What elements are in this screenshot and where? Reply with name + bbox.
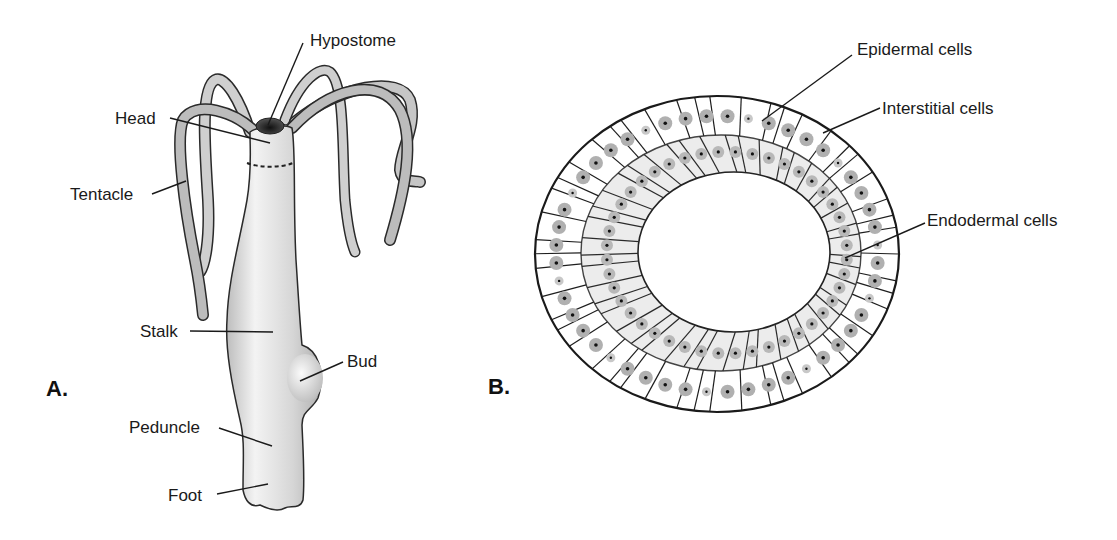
nucleolus — [868, 208, 872, 212]
nucleolus — [843, 230, 846, 233]
nucleolus — [831, 299, 834, 302]
nucleolus — [797, 170, 800, 173]
nucleolus — [876, 261, 880, 265]
nucleolus — [831, 203, 834, 206]
nucleolus — [805, 368, 807, 370]
label-tentacle: Tentacle — [70, 185, 133, 204]
nucleolus — [734, 352, 737, 355]
nucleolus — [845, 258, 848, 261]
nucleolus — [821, 148, 825, 152]
nucleolus — [668, 340, 671, 343]
nucleolus — [849, 176, 853, 180]
nucleolus — [767, 345, 770, 348]
nucleolus — [837, 162, 839, 164]
nucleolus — [626, 367, 630, 371]
nucleolus — [594, 343, 598, 347]
nucleolus — [838, 286, 841, 289]
nucleolus — [810, 180, 813, 183]
nucleolus — [571, 313, 575, 317]
nucleolus — [653, 170, 656, 173]
label-endodermal-cells: Endodermal cells — [927, 211, 1057, 230]
panel-b: Epidermal cells Interstitial cells Endod… — [488, 40, 1057, 412]
nucleolus — [640, 180, 643, 183]
nucleolus — [805, 137, 809, 141]
nucleolus — [838, 216, 841, 219]
nucleolus — [608, 272, 611, 275]
nucleolus — [683, 156, 686, 159]
leader-stalk — [190, 331, 273, 332]
nucleolus — [868, 297, 870, 299]
nucleolus — [668, 162, 671, 165]
nucleolus — [563, 297, 567, 301]
nucleolus — [610, 357, 612, 359]
hydra-figure: Hypostome Head Tentacle Stalk Bud Pedunc… — [0, 0, 1117, 540]
nucleolus — [821, 190, 824, 193]
nucleolus — [557, 225, 561, 229]
nucleolus — [640, 322, 643, 325]
panel-label-b: B. — [488, 374, 510, 399]
nucleolus — [629, 311, 632, 314]
label-stalk: Stalk — [140, 322, 178, 341]
nucleolus — [726, 390, 730, 394]
nucleolus — [608, 230, 611, 233]
bud — [287, 354, 323, 402]
nucleolus — [860, 191, 864, 195]
nucleolus — [873, 279, 877, 283]
nucleolus — [849, 329, 853, 333]
nucleolus — [860, 313, 864, 317]
nucleolus — [726, 114, 730, 118]
nucleolus — [783, 162, 786, 165]
nucleolus — [594, 161, 598, 165]
panel-a: Hypostome Head Tentacle Stalk Bud Pedunc… — [46, 31, 420, 510]
nucleolus — [605, 258, 608, 261]
label-peduncle: Peduncle — [129, 418, 200, 437]
nucleolus — [705, 114, 709, 118]
nucleolus — [620, 299, 623, 302]
nucleolus — [558, 280, 560, 282]
nucleolus — [555, 261, 559, 265]
nucleolus — [629, 190, 632, 193]
nucleolus — [663, 383, 667, 387]
nucleolus — [581, 176, 585, 180]
nucleolus — [684, 117, 688, 121]
nucleolus — [821, 311, 824, 314]
nucleolus — [821, 356, 825, 360]
hydra-body — [227, 126, 321, 510]
nucleolus — [684, 388, 688, 392]
leader-interstitial — [823, 108, 880, 133]
nucleolus — [747, 117, 749, 119]
nucleolus — [683, 345, 686, 348]
label-head: Head — [115, 109, 156, 128]
nucleolus — [705, 391, 707, 393]
label-bud: Bud — [347, 352, 377, 371]
nucleolus — [747, 388, 751, 392]
nucleolus — [620, 203, 623, 206]
nucleolus — [767, 383, 771, 387]
nucleolus — [700, 152, 703, 155]
nucleolus — [653, 332, 656, 335]
nucleolus — [717, 150, 720, 153]
nucleolus — [571, 192, 573, 194]
nucleolus — [555, 243, 559, 247]
label-epidermal-cells: Epidermal cells — [857, 40, 972, 59]
nucleolus — [613, 286, 616, 289]
nucleolus — [626, 137, 630, 141]
nucleolus — [605, 244, 608, 247]
gastrovascular-cavity — [638, 172, 830, 332]
nucleolus — [786, 376, 790, 380]
nucleolus — [810, 322, 813, 325]
nucleolus — [663, 122, 667, 126]
label-interstitial-cells: Interstitial cells — [882, 99, 993, 118]
leader-epidermal — [762, 55, 852, 121]
label-hypostome: Hypostome — [310, 31, 396, 50]
nucleolus — [581, 329, 585, 333]
nucleolus — [563, 208, 567, 212]
nucleolus — [613, 216, 616, 219]
nucleolus — [845, 244, 848, 247]
nucleolus — [843, 272, 846, 275]
nucleolus — [751, 152, 754, 155]
nucleolus — [751, 350, 754, 353]
label-foot: Foot — [168, 486, 202, 505]
nucleolus — [609, 148, 613, 152]
nucleolus — [786, 128, 790, 132]
